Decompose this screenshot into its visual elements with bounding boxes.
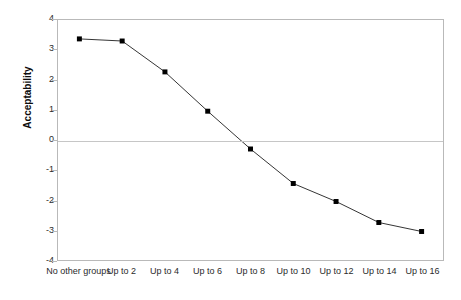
series-markers	[77, 36, 424, 234]
data-point-marker	[376, 220, 381, 225]
data-point-marker	[334, 199, 339, 204]
y-tick-mark	[52, 110, 57, 111]
data-point-marker	[205, 109, 210, 114]
y-tick-mark	[52, 80, 57, 81]
y-tick-mark	[52, 170, 57, 171]
plot-area	[57, 19, 444, 261]
y-tick-mark	[52, 201, 57, 202]
x-axis-tick-labels: No other groupsUp to 2Up to 4Up to 6Up t…	[57, 266, 444, 300]
x-tick-label: Up to 16	[385, 266, 461, 277]
data-series-svg	[58, 20, 443, 260]
data-point-marker	[77, 36, 82, 41]
y-axis-tick-labels: 43210-1-2-3-4	[36, 0, 54, 300]
y-axis-title: Acceptability	[22, 38, 33, 158]
data-point-marker	[120, 39, 125, 44]
y-tick-mark	[52, 19, 57, 20]
zero-reference-line	[58, 141, 443, 142]
acceptability-line-chart: Acceptability 43210-1-2-3-4 No other gro…	[0, 0, 461, 300]
data-point-marker	[419, 229, 424, 234]
data-point-marker	[248, 147, 253, 152]
y-tick-mark	[52, 231, 57, 232]
series-line	[79, 39, 421, 232]
data-point-marker	[162, 69, 167, 74]
y-tick-mark	[52, 140, 57, 141]
y-tick-mark	[52, 261, 57, 262]
data-point-marker	[291, 181, 296, 186]
y-tick-mark	[52, 49, 57, 50]
